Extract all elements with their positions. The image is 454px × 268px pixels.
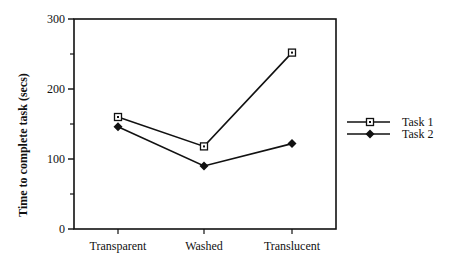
- x-tick-label: Transparent: [90, 239, 148, 253]
- y-tick-label: 100: [47, 152, 65, 166]
- x-axis: TransparentWashedTranslucent: [90, 229, 321, 253]
- open-square-marker-icon: [289, 49, 296, 56]
- y-tick-label: 200: [47, 82, 65, 96]
- legend-item: Task 2: [347, 127, 434, 141]
- x-tick-label: Washed: [185, 239, 223, 253]
- series-line: [118, 53, 292, 147]
- plot-border: [74, 19, 336, 229]
- open-square-marker-icon: [201, 143, 208, 150]
- y-tick-label: 300: [47, 12, 65, 26]
- open-square-marker-icon: [367, 119, 374, 126]
- plot-frame: [74, 19, 336, 229]
- series-layer: [114, 49, 297, 170]
- filled-diamond-marker-icon: [114, 122, 123, 131]
- filled-diamond-marker-icon: [288, 139, 297, 148]
- y-tick-label: 0: [59, 222, 65, 236]
- filled-diamond-marker-icon: [366, 130, 375, 139]
- line-chart: 0100200300 TransparentWashedTranslucent …: [0, 0, 454, 268]
- y-axis-label: Time to complete task (secs): [16, 73, 30, 217]
- x-tick-label: Translucent: [264, 239, 321, 253]
- series-task-1: [115, 49, 296, 150]
- open-square-marker-icon: [115, 114, 122, 121]
- y-axis: 0100200300: [47, 12, 74, 236]
- legend-label: Task 2: [402, 127, 434, 141]
- legend: Task 1Task 2: [347, 115, 434, 141]
- filled-diamond-marker-icon: [200, 162, 209, 171]
